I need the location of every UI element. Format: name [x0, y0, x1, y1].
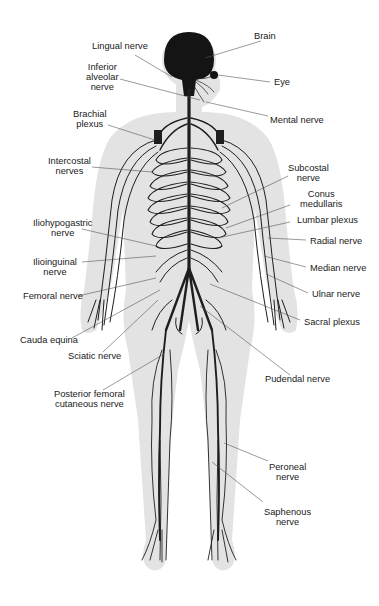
label-peroneal-nerve: Peroneal nerve — [269, 462, 306, 482]
label-conus-medullaris: Conus medullaris — [300, 189, 342, 209]
label-cauda-equina: Cauda equina — [20, 335, 78, 345]
label-iliohypogastric-nerve: Iliohypogastric nerve — [33, 218, 92, 238]
eye-dot — [210, 71, 218, 79]
label-pudendal-nerve: Pudendal nerve — [265, 374, 330, 384]
label-subcostal-nerve: Subcostal nerve — [288, 163, 329, 183]
label-brachial-plexus: Brachial plexus — [73, 109, 107, 129]
label-radial-nerve: Radial nerve — [310, 236, 362, 246]
label-femoral-nerve: Femoral nerve — [23, 291, 83, 301]
label-brain: Brain — [254, 31, 276, 41]
label-sacral-plexus: Sacral plexus — [304, 317, 360, 327]
nervous-system-diagram — [0, 0, 379, 606]
label-intercostal-nerves: Intercostal nerves — [48, 156, 91, 176]
label-mental-nerve: Mental nerve — [270, 115, 324, 125]
label-sciatic-nerve: Sciatic nerve — [68, 351, 121, 361]
label-median-nerve: Median nerve — [310, 263, 366, 273]
label-saphenous-nerve: Saphenous nerve — [264, 507, 311, 527]
label-lumbar-plexus: Lumbar plexus — [297, 215, 358, 225]
label-eye: Eye — [274, 77, 290, 87]
label-inferior-alveolar-nerve: Inferior alveolar nerve — [86, 62, 119, 92]
label-ilioinguinal-nerve: Ilioinguinal nerve — [33, 257, 77, 277]
label-posterior-femoral-cutaneous-nerve: Posterior femoral cutaneous nerve — [54, 389, 125, 409]
label-lingual-nerve: Lingual nerve — [92, 41, 148, 51]
label-ulnar-nerve: Ulnar nerve — [312, 289, 360, 299]
